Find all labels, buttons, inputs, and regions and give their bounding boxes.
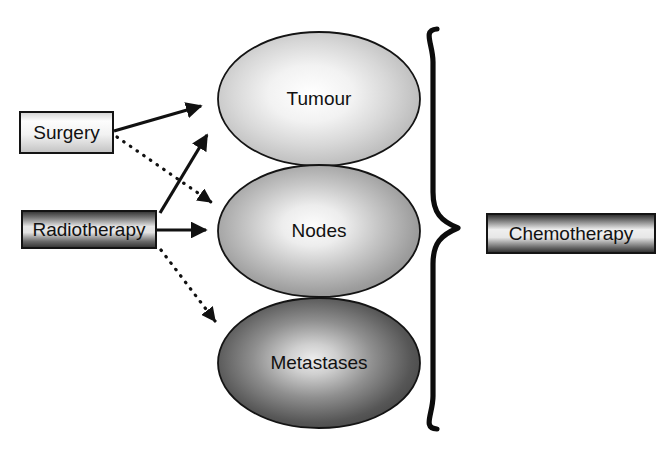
surgery-label: Surgery — [33, 122, 100, 143]
treatment-box-chemotherapy[interactable]: Chemotherapy — [487, 214, 655, 253]
grouping-brace — [429, 29, 458, 429]
brace-path — [429, 29, 458, 429]
target-group: Tumour Nodes Metastases — [218, 32, 420, 428]
treatment-box-surgery[interactable]: Surgery — [20, 112, 113, 153]
radiotherapy-label: Radiotherapy — [32, 219, 146, 240]
arrow-surgery-to-tumour[interactable] — [114, 106, 201, 131]
arrow-radiotherapy-to-tumour[interactable] — [160, 135, 207, 213]
target-node-nodes[interactable]: Nodes — [218, 165, 420, 297]
nodes-label: Nodes — [292, 220, 347, 241]
target-node-metastases[interactable]: Metastases — [218, 298, 420, 428]
diagram-canvas: Tumour Nodes Metastases Surgery Radiothe… — [0, 0, 660, 456]
treatment-box-radiotherapy[interactable]: Radiotherapy — [22, 211, 156, 248]
arrow-radiotherapy-to-metastases[interactable] — [161, 250, 215, 321]
tumour-label: Tumour — [287, 88, 352, 109]
metastases-label: Metastases — [270, 352, 367, 373]
diagram-svg: Tumour Nodes Metastases Surgery Radiothe… — [0, 0, 660, 456]
chemotherapy-label: Chemotherapy — [509, 223, 634, 244]
arrow-surgery-to-nodes[interactable] — [117, 137, 211, 202]
target-node-tumour[interactable]: Tumour — [218, 32, 420, 166]
